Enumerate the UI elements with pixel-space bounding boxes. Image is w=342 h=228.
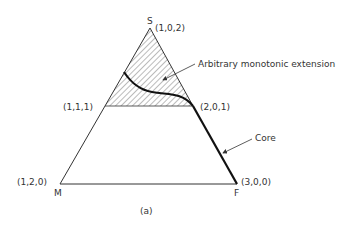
figure-caption: (a)	[140, 206, 153, 216]
vertex-coords-bottom-right: (3,0,0)	[241, 177, 271, 187]
vertex-letter-s: S	[147, 16, 153, 26]
vertex-coords-bottom-left: (1,2,0)	[17, 177, 47, 187]
annotation-extension: Arbitrary monotonic extension	[198, 59, 335, 69]
hatched-region	[105, 28, 193, 106]
annotation-core: Core	[255, 133, 276, 143]
mid-right-coords: (2,0,1)	[200, 102, 230, 112]
vertex-coords-top: (1,0,2)	[155, 23, 185, 33]
triangle-diagram: S (1,0,2) Arbitrary monotonic extension …	[0, 0, 342, 228]
core-line	[193, 106, 237, 184]
vertex-letter-m: M	[54, 188, 62, 198]
mid-left-coords: (1,1,1)	[63, 102, 93, 112]
core-arrow	[223, 139, 252, 153]
vertex-letter-f: F	[234, 188, 239, 198]
